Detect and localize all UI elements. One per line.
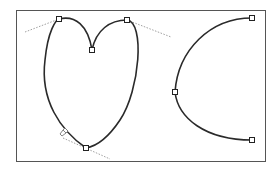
arc-path[interactable] (173, 16, 255, 143)
anchor-point[interactable] (125, 18, 130, 23)
bezier-handle-line[interactable] (127, 20, 171, 37)
anchor-point[interactable] (173, 90, 178, 95)
arc-path-stroke[interactable] (175, 18, 252, 140)
anchor-point[interactable] (57, 17, 62, 22)
canvas-frame (17, 11, 266, 162)
diagram-canvas (0, 0, 277, 170)
anchor-point[interactable] (250, 138, 255, 143)
pen-cursor-icon (60, 128, 68, 136)
anchor-point[interactable] (250, 16, 255, 21)
anchor-point[interactable] (90, 48, 95, 53)
heart-path[interactable] (25, 17, 171, 160)
heart-path-stroke[interactable] (44, 18, 138, 148)
anchor-point[interactable] (84, 146, 89, 151)
shapes-layer (25, 16, 255, 160)
